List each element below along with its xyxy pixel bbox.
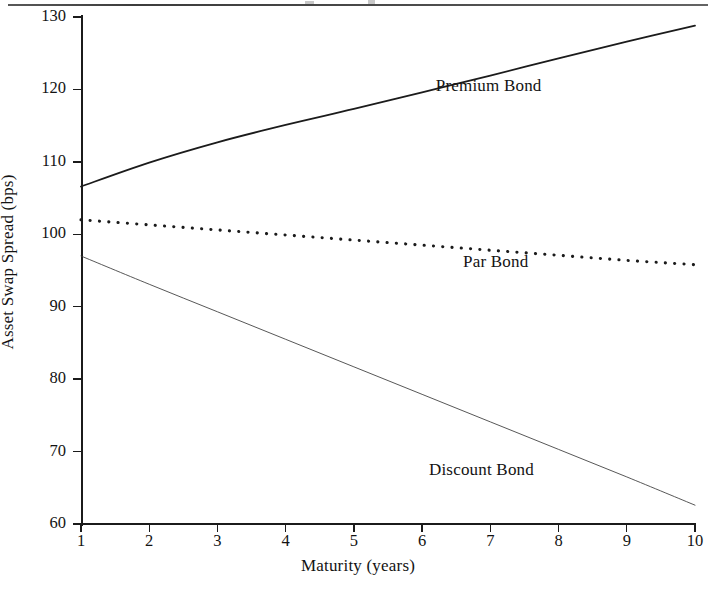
series-line-premium-bond [81, 26, 695, 187]
series-label-premium-bond: Premium Bond [436, 76, 542, 96]
figure-container: 60708090100110120130 12345678910 Asset S… [0, 0, 716, 593]
series-line-par-bond [81, 220, 695, 265]
series-label-discount-bond: Discount Bond [429, 460, 534, 480]
series-label-par-bond: Par Bond [463, 252, 528, 272]
plot-curves [0, 0, 716, 593]
series-line-discount-bond [81, 256, 695, 505]
